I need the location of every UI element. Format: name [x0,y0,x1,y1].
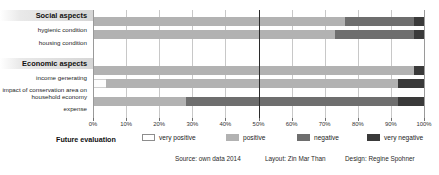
bar-segment-positive[interactable] [93,30,335,39]
bar-segment-positive[interactable] [93,17,345,26]
legend-item-positive: positive [226,134,265,141]
gridline-50 [259,10,260,118]
x-axis: 0%10%20%30%40%50%60%70%80%90%100% [93,118,424,130]
chart-figure: Social aspects hygienic condition housin… [0,0,439,175]
bar-segment-very-negative[interactable] [414,30,424,39]
bar-segment-negative[interactable] [186,97,398,106]
legend-swatch-negative-icon [297,134,310,141]
x-tick-label: 50% [253,121,265,127]
bar-segment-very-negative[interactable] [398,79,424,88]
legend-item-very-positive: very positive [142,134,196,141]
axis-line-right [424,10,425,118]
row-label-income-generating: income generating [36,74,87,81]
footer-layout: Layout: Zin Mar Than [265,155,326,162]
x-tick-label: 10% [120,121,132,127]
legend-item-negative: negative [297,134,339,141]
group-banner-label: Economic aspects [22,59,87,68]
x-tick-label: 60% [286,121,298,127]
legend-label: negative [314,134,339,141]
legend-title: Future evaluation [56,135,116,144]
bar-segment-very-positive[interactable] [93,79,106,88]
legend-label: positive [243,134,265,141]
bar-segment-very-negative[interactable] [414,17,424,26]
row-label-impact-of-conservation-area: impact of conservation area on household… [2,86,87,100]
bar-segment-very-negative[interactable] [414,66,424,75]
x-tick-label: 20% [153,121,165,127]
row-label-hygienic-condition: hygienic condition [38,26,87,33]
group-banner-economic: Economic aspects [0,58,93,69]
x-tick-label: 30% [186,121,198,127]
x-tick-label: 100% [416,121,431,127]
axis-line-left [93,10,94,118]
legend-swatch-very-positive-icon [142,134,155,141]
row-label-housing-condition: housing condition [39,39,87,46]
footer-credits: Source: own data 2014 Layout: Zin Mar Th… [0,155,439,169]
x-tick-label: 40% [219,121,231,127]
legend-label: very positive [159,134,196,141]
group-banner-label: Social aspects [36,11,87,20]
bar-segment-very-negative[interactable] [398,97,424,106]
x-tick-label: 70% [319,121,331,127]
x-tick-label: 90% [385,121,397,127]
legend-swatch-very-negative-icon [367,134,380,141]
plot-area [93,10,424,118]
bar-segment-positive[interactable] [93,66,414,75]
bar-segment-negative[interactable] [335,30,414,39]
legend-item-very-negative: very negative [367,134,423,141]
legend-label: very negative [384,134,423,141]
row-label-expense: expense [64,105,87,112]
legend-swatch-positive-icon [226,134,239,141]
footer-source: Source: own data 2014 [175,155,241,162]
x-tick-label: 0% [89,121,98,127]
legend: Future evaluation very positive positive… [0,133,439,147]
bar-segment-positive[interactable] [106,79,397,88]
bar-segment-negative[interactable] [345,17,415,26]
footer-design: Design: Regine Spohner [345,155,415,162]
bar-segment-positive[interactable] [93,97,186,106]
category-label-column: Social aspects hygienic condition housin… [0,10,93,118]
x-tick-label: 80% [352,121,364,127]
group-banner-social: Social aspects [0,10,93,21]
